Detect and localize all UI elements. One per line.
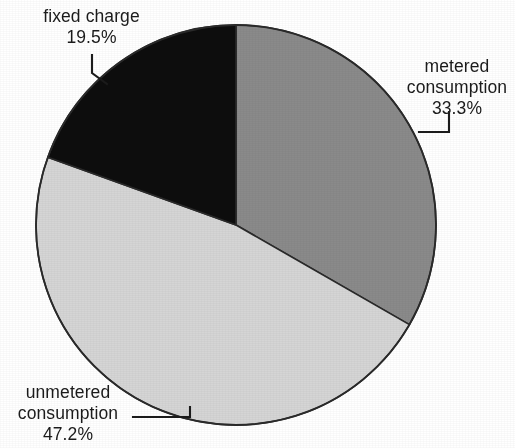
slice-label-unmetered-consumption: unmetered consumption 47.2% — [2, 382, 134, 445]
slice-label-fixed-charge-value: 19.5% — [14, 27, 169, 48]
slice-label-unmetered-consumption-name-2: consumption — [2, 403, 134, 424]
pie-slices — [36, 25, 436, 425]
slice-label-metered-consumption-value: 33.3% — [398, 98, 515, 119]
slice-label-fixed-charge-name: fixed charge — [14, 6, 169, 27]
slice-label-fixed-charge: fixed charge 19.5% — [14, 6, 169, 48]
slice-label-unmetered-consumption-value: 47.2% — [2, 424, 134, 445]
slice-label-metered-consumption: metered consumption 33.3% — [398, 56, 515, 119]
slice-label-metered-consumption-name-1: metered — [398, 56, 515, 77]
pie-chart-figure: fixed charge 19.5% metered consumption 3… — [0, 0, 515, 448]
slice-label-unmetered-consumption-name-1: unmetered — [2, 382, 134, 403]
slice-label-metered-consumption-name-2: consumption — [398, 77, 515, 98]
